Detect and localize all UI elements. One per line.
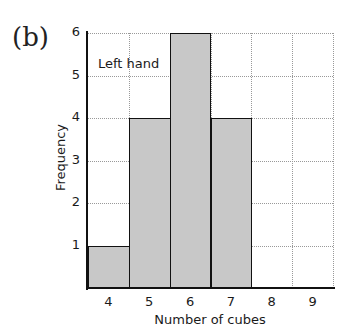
y-axis-line (86, 31, 88, 290)
y-axis-label: Frequency (53, 118, 68, 198)
y-tick-label: 1 (60, 237, 80, 252)
histogram-bar (211, 118, 253, 289)
x-tick-label: 6 (180, 294, 200, 309)
x-tick-label: 4 (98, 294, 118, 309)
x-tick-label: 5 (139, 294, 159, 309)
histogram-bar (170, 33, 212, 289)
chart-annotation: Left hand (98, 56, 159, 71)
x-axis-label: Number of cubes (120, 312, 300, 327)
y-tick-label: 6 (60, 24, 80, 39)
histogram-bar (129, 118, 171, 289)
x-tick-label: 7 (221, 294, 241, 309)
y-tick-label: 5 (60, 67, 80, 82)
x-axis-line (86, 287, 335, 289)
plot-area (88, 33, 333, 288)
gridline-vertical (333, 33, 334, 288)
histogram-bar (88, 246, 130, 290)
gridline-vertical (292, 33, 293, 288)
x-tick-label: 8 (262, 294, 282, 309)
panel-label: (b) (12, 22, 49, 52)
x-tick-label: 9 (303, 294, 323, 309)
